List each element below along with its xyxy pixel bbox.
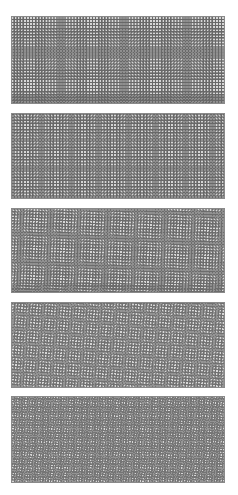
moire-panel-5 [11, 396, 225, 483]
grating-b [11, 302, 225, 388]
moire-panel-3 [11, 208, 225, 293]
grating-b [11, 16, 225, 104]
grating-b [11, 208, 225, 293]
grating-b [11, 113, 225, 199]
grating-b [11, 396, 225, 483]
moire-panel-4 [11, 302, 225, 388]
moire-panel-2 [11, 113, 225, 199]
moire-panel-1 [11, 16, 225, 104]
